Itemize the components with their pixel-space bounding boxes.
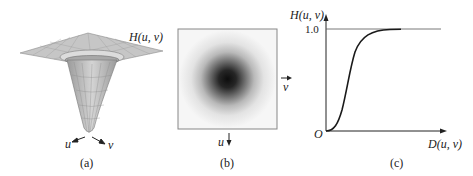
caption-c: (c): [390, 157, 403, 169]
axis-u-label-b: u: [218, 136, 224, 148]
surface-plot-3d: [20, 33, 163, 144]
u-arrow: [227, 133, 232, 146]
surface-funnel: [67, 60, 117, 132]
origin-label: O: [314, 128, 323, 140]
axis-v-label-a: v: [108, 139, 113, 151]
surface-label: H(u, v): [129, 31, 163, 43]
x-axis-label: D(u, v): [428, 138, 462, 150]
axis-u-label-a: u: [65, 138, 71, 150]
y-tick-1: 1.0: [305, 24, 319, 35]
axis-arrows-uv: [72, 137, 105, 144]
profile-curve: [326, 29, 401, 131]
caption-b: (b): [220, 157, 234, 169]
filter-image: [178, 29, 292, 146]
y-axis-label: H(u, v): [290, 9, 324, 21]
profile-chart: [324, 14, 448, 134]
axis-v-label-b: v: [283, 81, 288, 93]
caption-a: (a): [80, 157, 93, 169]
